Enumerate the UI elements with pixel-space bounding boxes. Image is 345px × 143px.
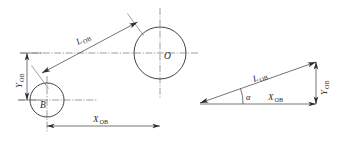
dimension-label-lob-right-subscript: OB bbox=[258, 73, 268, 82]
dimension-label-xob-left: X OB bbox=[92, 114, 108, 125]
dimension-label-lob-left: L OB bbox=[73, 31, 92, 48]
dimension-label-xob-right-symbol: X bbox=[267, 92, 274, 102]
technical-diagram-figure: O B L OB Y OB bbox=[0, 0, 345, 143]
extension-tick-b bbox=[32, 66, 49, 89]
right-view-group: α L OB X OB Y OB bbox=[200, 62, 330, 104]
dimension-label-yob-left: Y OB bbox=[14, 73, 25, 88]
extension-tick-o bbox=[128, 14, 144, 36]
dimension-label-xob-right: X OB bbox=[267, 92, 283, 103]
dimension-label-yob-right: Y OB bbox=[319, 80, 330, 95]
dimension-line-lob-diagonal bbox=[42, 22, 138, 73]
dimension-label-lob-right: L OB bbox=[250, 70, 268, 86]
dimension-label-xob-left-symbol: X bbox=[92, 114, 99, 124]
dimension-label-yob-left-subscript: OB bbox=[18, 73, 25, 82]
diagram-root: O B L OB Y OB bbox=[0, 0, 345, 143]
angle-arc-alpha bbox=[241, 89, 244, 105]
left-view-group: O B L OB Y OB bbox=[14, 8, 198, 133]
circle-o-center-label: O bbox=[164, 51, 171, 61]
dimension-label-xob-right-subscript: OB bbox=[275, 96, 284, 103]
dimension-label-xob-left-subscript: OB bbox=[100, 118, 109, 125]
circle-b-center-label: B bbox=[40, 100, 46, 110]
dimension-label-yob-right-subscript: OB bbox=[323, 80, 330, 89]
dimension-label-lob-left-subscript: OB bbox=[81, 35, 92, 45]
angle-label-alpha: α bbox=[246, 92, 251, 102]
dimension-label-lob-right-symbol: L bbox=[250, 73, 259, 84]
